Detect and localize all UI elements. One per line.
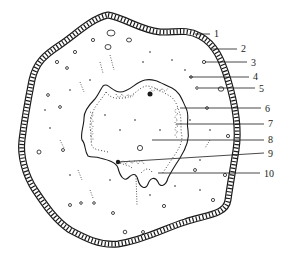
label-2: 2 [241, 43, 246, 54]
label-7: 7 [268, 118, 273, 129]
label-3: 3 [251, 57, 256, 68]
outer-band [22, 15, 238, 244]
label-5: 5 [259, 83, 264, 94]
label-10: 10 [264, 168, 274, 179]
label-6: 6 [265, 103, 270, 114]
label-8: 8 [268, 134, 273, 145]
scattered-dots [44, 51, 211, 196]
leader-line-9 [118, 153, 264, 162]
inner-region [81, 80, 188, 188]
scattered-cells [37, 30, 230, 234]
diagram-stage: 1 2 3 4 5 6 7 8 9 10 [0, 0, 293, 264]
label-1: 1 [214, 28, 219, 39]
label-4: 4 [253, 71, 258, 82]
label-numbers: 1 2 3 4 5 6 7 8 9 10 [214, 28, 274, 179]
labels [118, 34, 264, 173]
label-9: 9 [268, 148, 273, 159]
cross-section-diagram: 1 2 3 4 5 6 7 8 9 10 [0, 0, 293, 264]
